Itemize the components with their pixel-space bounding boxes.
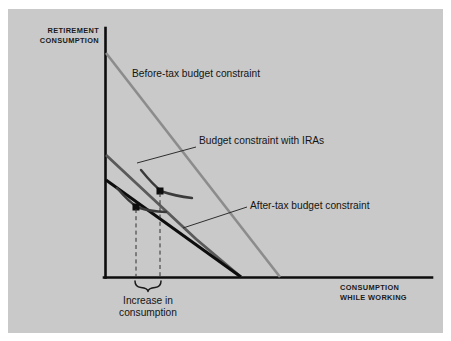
increase-label-line2: consumption [119,307,177,318]
axes-group [104,28,432,278]
budget-constraint-chart: RETIREMENT CONSUMPTION CONSUMPTION WHILE… [0,0,451,341]
before-tax-budget-label: Before-tax budget constraint [132,68,260,79]
x-axis-title-line1: CONSUMPTION [340,283,399,292]
ira-budget-label: Budget constraint with IRAs [199,135,324,146]
increase-bracket [135,281,161,292]
y-axis-title-line1: RETIREMENT [47,26,99,35]
ira-label-leader-line [137,147,196,163]
x-axis-title: CONSUMPTION WHILE WORKING [340,283,407,302]
after-tax-label-leader-line [183,207,247,228]
increase-label-line1: Increase in [123,295,173,306]
y-axis-title: RETIREMENT CONSUMPTION [40,26,99,45]
y-axis-title-line2: CONSUMPTION [40,36,99,45]
after-tax-budget-label: After-tax budget constraint [250,200,370,211]
increase-in-consumption-label: Increase in consumption [119,295,177,318]
figure-root: RETIREMENT CONSUMPTION CONSUMPTION WHILE… [0,0,451,341]
x-axis-title-line2: WHILE WORKING [340,293,407,302]
